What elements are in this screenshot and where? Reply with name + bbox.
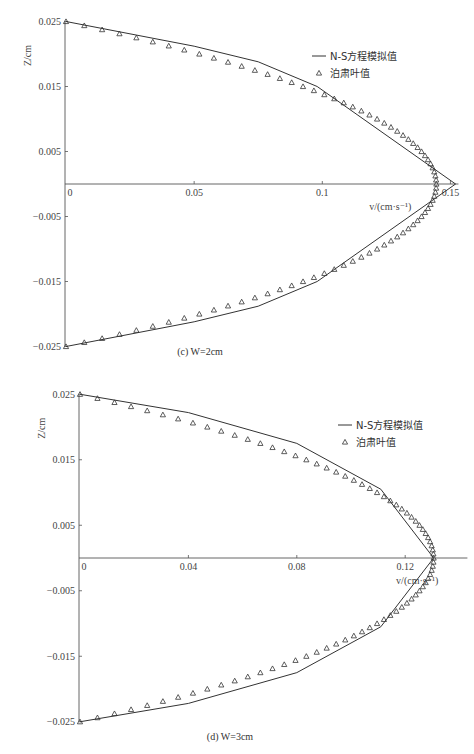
- y-tick-label: 0.025: [53, 389, 76, 400]
- legend-label-ns: N-S方程模拟值: [356, 419, 423, 431]
- triangle-marker: [252, 295, 257, 300]
- x-tick-label: 0: [68, 187, 73, 198]
- triangle-marker: [211, 55, 216, 60]
- triangle-marker: [374, 621, 379, 626]
- x-tick-label: 0: [82, 561, 87, 572]
- legend-triangle-swatch: [316, 70, 321, 75]
- triangle-marker: [219, 428, 224, 433]
- triangle-marker: [304, 654, 309, 659]
- x-tick-label: 0.12: [396, 561, 414, 572]
- triangle-marker: [334, 469, 339, 474]
- y-axis-title: Z/cm: [22, 45, 33, 66]
- y-tick-label: 0.025: [39, 16, 62, 27]
- legend-label-ns: N-S方程模拟值: [330, 50, 397, 62]
- triangle-marker: [314, 461, 319, 466]
- triangle-marker: [239, 64, 244, 69]
- legend-label-poiseuille: 泊肃叶值: [330, 67, 370, 79]
- triangle-marker: [351, 478, 356, 483]
- triangle-marker: [211, 307, 216, 312]
- triangle-marker: [395, 234, 400, 239]
- triangle-marker: [400, 133, 405, 138]
- triangle-marker: [150, 324, 155, 329]
- triangle-marker: [388, 238, 393, 243]
- triangle-marker: [374, 246, 379, 251]
- triangle-marker: [304, 457, 309, 462]
- triangle-marker: [289, 283, 294, 288]
- triangle-marker: [374, 116, 379, 121]
- triangle-marker: [359, 255, 364, 260]
- x-tick-label: 0.1: [316, 187, 329, 198]
- triangle-marker: [394, 502, 399, 507]
- triangle-marker: [341, 100, 346, 105]
- triangle-marker: [293, 453, 298, 458]
- y-tick-label: −0.015: [47, 651, 75, 662]
- triangle-marker: [374, 490, 379, 495]
- triangle-marker: [150, 39, 155, 44]
- triangle-marker: [197, 51, 202, 56]
- triangle-marker: [289, 80, 294, 85]
- y-tick-label: −0.005: [47, 585, 75, 596]
- triangle-marker: [400, 230, 405, 235]
- x-tick-label: 0.05: [185, 187, 203, 198]
- triangle-marker: [160, 699, 165, 704]
- chart-panel-d: 0.0250.0150.005−0.005−0.015−0.02500.040.…: [36, 389, 467, 743]
- triangle-marker: [311, 275, 316, 280]
- triangle-marker: [265, 72, 270, 77]
- y-tick-label: 0.005: [53, 520, 76, 531]
- y-tick-label: 0.005: [39, 146, 62, 157]
- triangle-marker: [343, 474, 348, 479]
- triangle-marker: [314, 650, 319, 655]
- triangle-marker: [404, 510, 409, 515]
- triangle-marker: [367, 112, 372, 117]
- triangle-marker: [270, 666, 275, 671]
- triangle-marker: [277, 287, 282, 292]
- triangle-marker: [145, 408, 150, 413]
- triangle-marker: [128, 404, 133, 409]
- triangle-marker: [252, 68, 257, 73]
- triangle-marker: [395, 129, 400, 134]
- chart-caption: (d) W=3cm: [207, 731, 253, 743]
- legend-triangle-swatch: [342, 439, 347, 444]
- triangle-marker: [324, 645, 329, 650]
- triangle-marker: [219, 682, 224, 687]
- triangle-marker: [350, 259, 355, 264]
- triangle-marker: [160, 412, 165, 417]
- y-tick-label: −0.015: [33, 276, 61, 287]
- triangle-marker: [205, 686, 210, 691]
- y-tick-label: −0.025: [47, 716, 75, 727]
- triangle-marker: [145, 703, 150, 708]
- triangle-marker: [112, 711, 117, 716]
- triangle-marker: [205, 424, 210, 429]
- triangle-marker: [258, 441, 263, 446]
- triangle-marker: [245, 674, 250, 679]
- triangle-marker: [245, 437, 250, 442]
- triangle-marker: [300, 279, 305, 284]
- triangle-marker: [406, 137, 411, 142]
- triangle-marker: [341, 263, 346, 268]
- triangle-marker: [399, 605, 404, 610]
- triangle-marker: [258, 670, 263, 675]
- triangle-marker: [232, 433, 237, 438]
- triangle-marker: [322, 271, 327, 276]
- chart-figure: 0.0250.0150.005−0.005−0.015−0.02500.050.…: [0, 0, 474, 754]
- chart-panel-c: 0.0250.0150.005−0.005−0.015−0.02500.050.…: [22, 16, 459, 358]
- triangle-marker: [166, 320, 171, 325]
- triangle-marker: [270, 445, 275, 450]
- triangle-marker: [382, 120, 387, 125]
- triangle-marker: [381, 617, 386, 622]
- triangle-marker: [359, 482, 364, 487]
- triangle-marker: [128, 707, 133, 712]
- triangle-marker: [182, 47, 187, 52]
- triangle-marker: [334, 641, 339, 646]
- triangle-marker: [182, 315, 187, 320]
- triangle-marker: [300, 84, 305, 89]
- triangle-marker: [399, 506, 404, 511]
- triangle-marker: [225, 60, 230, 65]
- triangle-marker: [359, 108, 364, 113]
- legend-label-poiseuille: 泊肃叶值: [356, 436, 396, 448]
- x-tick-label: 0.04: [180, 561, 198, 572]
- triangle-marker: [367, 250, 372, 255]
- triangle-marker: [324, 465, 329, 470]
- triangle-marker: [351, 633, 356, 638]
- triangle-marker: [225, 303, 230, 308]
